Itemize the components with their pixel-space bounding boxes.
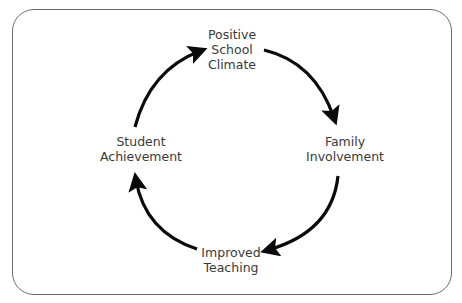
node-positive-school-climate: Positive School Climate [192, 27, 272, 72]
node-student-achievement: Student Achievement [86, 134, 196, 164]
node-improved-teaching: Improved Teaching [190, 245, 272, 275]
arrow-teaching-to-achievement-icon [136, 180, 197, 249]
arrow-achievement-to-climate-icon [135, 51, 200, 127]
node-family-involvement: Family Involvement [290, 134, 400, 164]
arrow-climate-to-family-icon [264, 50, 334, 118]
arrow-family-to-teaching-icon [268, 176, 338, 250]
